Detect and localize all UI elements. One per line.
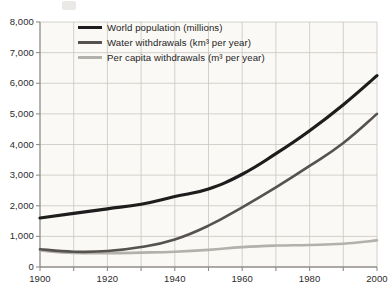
y-axis-tick-label: 3,000 — [0, 170, 34, 180]
y-axis-tick-label: 8,000 — [0, 17, 34, 27]
legend-label-per-capita-withdrawals: Per capita withdrawals (m³ per year) — [107, 52, 265, 63]
legend-swatch-world-population — [78, 26, 102, 29]
legend-label-world-population: World population (millions) — [107, 22, 223, 33]
y-axis-tick-label: 0 — [0, 262, 34, 272]
legend-item-water-withdrawals: Water withdrawals (km³ per year) — [78, 35, 265, 50]
water-population-chart: 8,0007,0006,0005,0004,0003,0002,0001,000… — [0, 0, 392, 290]
legend-label-water-withdrawals: Water withdrawals (km³ per year) — [107, 37, 251, 48]
y-axis-tick-label: 4,000 — [0, 140, 34, 150]
legend-item-world-population: World population (millions) — [78, 20, 265, 35]
chart-legend: World population (millions) Water withdr… — [78, 20, 265, 65]
legend-swatch-per-capita-withdrawals — [78, 56, 102, 59]
y-axis-tick-label: 5,000 — [0, 109, 34, 119]
x-axis-tick-label: 1960 — [222, 274, 262, 284]
y-axis-tick-label: 1,000 — [0, 231, 34, 241]
x-axis-tick-label: 1980 — [290, 274, 330, 284]
y-axis-tick-label: 2,000 — [0, 201, 34, 211]
y-axis-tick-label: 6,000 — [0, 78, 34, 88]
y-axis-tick-label: 7,000 — [0, 48, 34, 58]
x-axis-tick-label: 1920 — [87, 274, 127, 284]
x-axis-tick-label: 1940 — [155, 274, 195, 284]
x-axis-tick-label: 1900 — [20, 274, 60, 284]
x-axis-tick-label: 2000 — [357, 274, 392, 284]
legend-swatch-water-withdrawals — [78, 41, 102, 44]
legend-item-per-capita-withdrawals: Per capita withdrawals (m³ per year) — [78, 50, 265, 65]
